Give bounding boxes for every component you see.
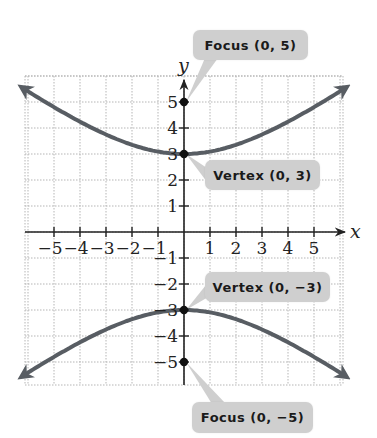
callout-pointer [186, 362, 226, 404]
vertex-bottom-callout: Vertex (0, −3) [205, 272, 330, 302]
axes [25, 80, 345, 385]
x-tick-label: −2 [115, 238, 140, 258]
x-tick-label: −3 [89, 238, 114, 258]
vertex-point [180, 306, 188, 314]
y-tick-label: 5 [167, 92, 178, 112]
focus-point [180, 358, 188, 366]
x-tick-label: 3 [257, 238, 268, 258]
callout-pointers [186, 58, 226, 404]
x-tick-label: −5 [37, 238, 62, 258]
y-tick-label: −2 [153, 274, 178, 294]
focus-point [180, 98, 188, 106]
focus-top-callout: Focus (0, 5) [193, 30, 308, 60]
y-tick-label: −3 [153, 300, 178, 320]
y-tick-label: 1 [167, 196, 178, 216]
y-axis-label: y [177, 54, 189, 76]
x-tick-label: 2 [231, 238, 242, 258]
x-tick-label: 4 [283, 238, 294, 258]
vertex-top-callout: Vertex (0, 3) [205, 160, 320, 190]
x-tick-label: 5 [309, 238, 320, 258]
y-tick-label: −5 [153, 352, 178, 372]
x-axis-label: x [350, 220, 361, 242]
callout-pointer [186, 58, 218, 102]
focus-bottom-callout: Focus (0, −5) [192, 402, 313, 433]
hyperbola-plot: −5−4−3−2−112345−5−4−3−2−112345 x y [0, 0, 377, 438]
x-tick-label: 1 [205, 238, 216, 258]
y-tick-label: 4 [167, 118, 178, 138]
vertex-point [180, 150, 188, 158]
y-tick-label: 2 [167, 170, 178, 190]
x-tick-label: −4 [63, 238, 88, 258]
y-tick-label: −4 [153, 326, 178, 346]
y-tick-label: 3 [167, 144, 178, 164]
y-tick-label: −1 [153, 248, 178, 268]
